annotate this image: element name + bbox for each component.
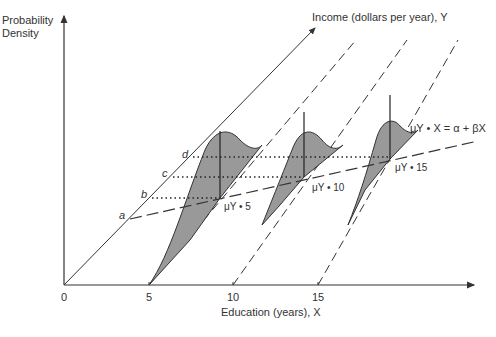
mean-label-x15: μY • 15 xyxy=(395,162,427,173)
income-line-x15 xyxy=(318,40,458,285)
x-tick-5: 5 xyxy=(146,291,152,304)
point-c: c xyxy=(162,167,168,180)
point-d: d xyxy=(182,148,188,161)
income-axis-label: Income (dollars per year), Y xyxy=(312,11,448,24)
y-axis-label-line1: Probability xyxy=(2,14,53,27)
regression-equation-label: μY • X = α + βX xyxy=(410,122,486,135)
x-tick-0: 0 xyxy=(61,291,67,304)
y-axis-label-line2: Density xyxy=(2,27,39,40)
income-axis xyxy=(64,28,315,285)
point-a: a xyxy=(119,209,125,222)
density-curve-x15 xyxy=(348,121,418,225)
mean-label-x5: μY • 5 xyxy=(224,201,251,212)
mean-label-x10: μY • 10 xyxy=(312,182,344,193)
density-curve-x10 xyxy=(262,132,343,225)
x-tick-10: 10 xyxy=(227,291,239,304)
x-axis-label: Education (years), X xyxy=(221,306,321,319)
x-tick-15: 15 xyxy=(312,291,324,304)
point-b: b xyxy=(141,188,147,201)
